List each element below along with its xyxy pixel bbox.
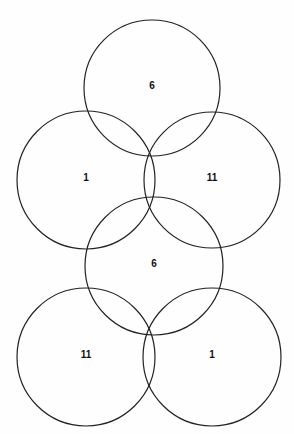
label-lower-left: 11 [81,350,92,360]
label-lower-right: 1 [209,350,215,360]
label-upper-left: 1 [83,173,89,183]
label-middle: 6 [151,259,157,269]
label-upper-right: 11 [207,173,218,183]
circles-canvas [0,0,294,434]
circle-diagram: 6 1 11 6 11 1 [0,0,294,434]
label-top: 6 [149,81,155,91]
